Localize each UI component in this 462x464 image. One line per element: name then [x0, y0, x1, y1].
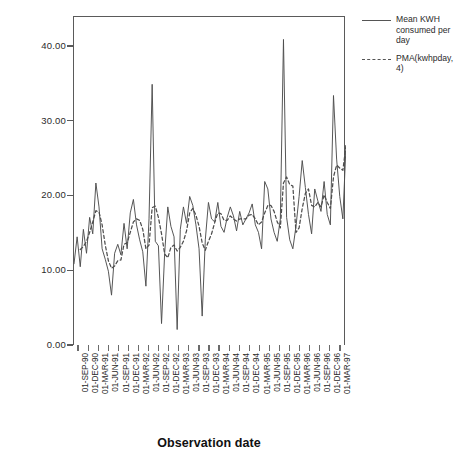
x-axis-tick-mark [208, 345, 209, 351]
x-axis-tick-label: 01-JUN-93 [192, 353, 201, 392]
x-axis-tick-label: 01-DEC-93 [212, 353, 221, 393]
x-axis-tick-mark [339, 345, 340, 351]
x-axis-tick-mark [239, 345, 240, 351]
x-axis-tick-mark [188, 345, 189, 351]
x-axis-tick-label: 01-JUN-92 [152, 353, 161, 392]
x-axis-tick-mark [289, 345, 290, 351]
x-axis-tick-label: 01-JUN-94 [232, 353, 241, 392]
legend-item-label: Mean KWH consumed per day [396, 14, 462, 46]
x-axis-tick-label: 01-DEC-92 [172, 353, 181, 393]
x-axis-tick-mark [299, 345, 300, 351]
x-axis-tick-mark [98, 345, 99, 351]
x-axis-tick-mark [329, 345, 330, 351]
x-axis-tick-mark [88, 345, 89, 351]
legend-line-solid-icon [362, 20, 391, 21]
x-axis-tick-mark [168, 345, 169, 351]
chart-legend: Mean KWH consumed per day PMA(kwhpday, 4… [362, 14, 462, 81]
x-axis-tick-label: 01-JUN-96 [313, 353, 322, 392]
x-axis-title: Observation date [73, 436, 345, 450]
x-axis-tick-mark [279, 345, 280, 351]
x-axis-tick-mark [118, 345, 119, 351]
x-axis-tick-mark [178, 345, 179, 351]
x-axis-tick-label: 01-DEC-95 [293, 353, 302, 393]
x-axis-tick-mark [269, 345, 270, 351]
x-axis-tick-mark [158, 345, 159, 351]
x-axis-tick-mark [128, 345, 129, 351]
x-axis-tick-mark [148, 345, 149, 351]
legend-line-dashed-icon [362, 59, 391, 60]
x-axis-tick-label: 01-MAR-92 [142, 353, 151, 394]
x-axis-tick-mark [259, 345, 260, 351]
x-axis-tick-label: 01-MAR-91 [101, 353, 110, 394]
x-axis-tick-label: 01-MAR-93 [182, 353, 191, 394]
x-axis-tick-mark [229, 345, 230, 351]
x-axis-tick-mark [249, 345, 250, 351]
x-axis-tick-label: 01-MAR-95 [263, 353, 272, 394]
timeseries-chart: 0.0010.0020.0030.0040.00 01-SEP-9001-DEC… [0, 0, 462, 464]
x-axis-tick-label: 01-SEP-91 [122, 353, 131, 392]
legend-item: PMA(kwhpday, 4) [362, 53, 462, 74]
x-axis-tick-mark [77, 345, 78, 351]
x-axis-tick-label: 01-DEC-94 [252, 353, 261, 393]
x-axis-tick-label: 01-SEP-95 [283, 353, 292, 392]
legend-item: Mean KWH consumed per day [362, 14, 462, 46]
x-axis-tick-mark [108, 345, 109, 351]
x-axis-tick-label: 01-SEP-96 [323, 353, 332, 392]
x-axis-tick-mark [309, 345, 310, 351]
x-axis-tick-mark [218, 345, 219, 351]
legend-item-label: PMA(kwhpday, 4) [396, 53, 462, 74]
x-axis-tick-label: 01-SEP-90 [81, 353, 90, 392]
x-axis-tick-mark [198, 345, 199, 351]
x-axis-tick-label: 01-DEC-96 [333, 353, 342, 393]
x-axis-tick-label: 01-DEC-91 [132, 353, 141, 393]
x-axis-tick-label: 01-SEP-93 [202, 353, 211, 392]
x-axis-tick-label: 01-MAR-97 [343, 353, 352, 394]
x-axis-tick-mark [319, 345, 320, 351]
x-axis-tick-label: 01-MAR-96 [303, 353, 312, 394]
x-axis-tick-label: 01-MAR-94 [222, 353, 231, 394]
x-axis-tick-label: 01-DEC-90 [91, 353, 100, 393]
x-axis-tick-label: 01-SEP-92 [162, 353, 171, 392]
x-axis-tick-label: 01-JUN-91 [111, 353, 120, 392]
x-axis-tick-label: 01-JUN-95 [273, 353, 282, 392]
x-axis-tick-label: 01-SEP-94 [242, 353, 251, 392]
x-axis-tick-mark [138, 345, 139, 351]
